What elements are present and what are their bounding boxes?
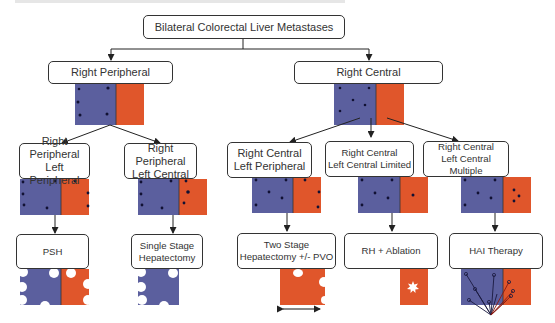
node-label-line1: Right Central	[234, 147, 306, 160]
liver-rc-lc-multiple	[461, 177, 531, 213]
root-node: Bilateral Colorectal Liver Metastases	[143, 15, 345, 39]
treatment-label-line1: Single Stage	[139, 240, 196, 252]
liver-rc-lc-limited	[358, 177, 428, 213]
node-label-line2: Left Central Multiple	[424, 153, 508, 177]
treatment-label-line1: HAI Therapy	[469, 245, 523, 257]
result-liver-psh	[17, 267, 93, 311]
liver-rc-lp	[252, 177, 321, 213]
node-label-line1: Right Central	[328, 147, 411, 159]
root-connector	[111, 38, 369, 60]
treatment-label-line2: Hepatectomy +/- PVO	[240, 251, 334, 263]
node-label: Right Peripheral	[71, 66, 150, 79]
node-label-line2: Left Central Limited	[328, 159, 411, 171]
liver-rp-lc	[138, 179, 207, 215]
treatment-hai: HAI Therapy	[449, 233, 543, 269]
treatment-label-line1: PSH	[43, 246, 63, 258]
node-label: Right Central	[336, 66, 400, 79]
result-liver-two-stage	[280, 269, 329, 309]
node-rc-lc-limited: Right CentralLeft Central Limited	[325, 141, 414, 177]
node-label-line1: Right Peripheral	[125, 142, 196, 168]
node-label-line2: Left Peripheral	[234, 160, 306, 173]
treatment-label-line2: Hepatectomy	[139, 252, 196, 264]
node-rp-lp: Right PeripheralLeft Peripheral	[19, 143, 90, 179]
treatment-label-line1: RH + Ablation	[362, 245, 421, 257]
node-rc-lp: Right CentralLeft Peripheral	[227, 142, 312, 178]
node-label-line1: Right Central	[424, 141, 508, 153]
level2-connectors	[55, 213, 495, 233]
node-rc-lc-multiple: Right CentralLeft Central Multiple	[423, 141, 509, 177]
result-liver-single-stage	[136, 267, 179, 311]
liver-right-peripheral	[75, 84, 144, 125]
result-liver-hai	[461, 269, 531, 315]
treatment-rh-ablation: RH + Ablation	[344, 233, 438, 269]
node-label-line2: Left Central	[125, 168, 196, 181]
node-right-peripheral: Right Peripheral	[48, 61, 173, 84]
treatment-psh: PSH	[16, 234, 89, 269]
result-liver-rh-ablation	[400, 269, 428, 305]
node-label-line2: Left Peripheral	[20, 161, 89, 187]
treatment-two-stage: Two StageHepatectomy +/- PVO	[237, 233, 336, 269]
treatment-single-stage: Single StageHepatectomy	[131, 234, 203, 269]
treatment-label-line1: Two Stage	[240, 239, 334, 251]
root-label: Bilateral Colorectal Liver Metastases	[155, 21, 334, 34]
node-label-line1: Right Peripheral	[20, 135, 89, 161]
node-rp-lc: Right PeripheralLeft Central	[124, 143, 197, 179]
node-right-central: Right Central	[294, 61, 443, 84]
liver-right-central	[334, 84, 404, 125]
